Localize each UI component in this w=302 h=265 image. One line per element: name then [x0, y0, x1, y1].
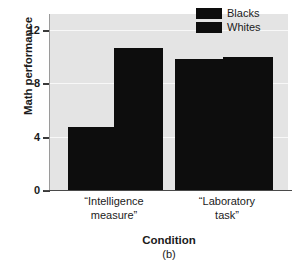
legend-swatch-whites — [196, 22, 222, 33]
x-category-label-line-2: task” — [168, 209, 286, 223]
y-axis-title: Math performance — [22, 0, 34, 146]
x-category-label-line-1: “Intelligence — [54, 195, 174, 209]
x-axis-line — [44, 190, 292, 191]
bar-whites-laboratory-task — [223, 57, 273, 190]
y-tick-label-4: 4 — [0, 132, 40, 143]
y-tick-label-8: 8 — [0, 78, 40, 89]
y-tick-label-0: 0 — [0, 185, 40, 196]
x-category-label-line-2: measure” — [54, 209, 174, 223]
x-category-label-line-1: “Laboratory — [168, 195, 286, 209]
legend-item-whites: Whites — [196, 22, 261, 33]
x-axis-title: Condition — [50, 234, 288, 246]
legend: Blacks Whites — [196, 8, 261, 33]
legend-label-whites: Whites — [227, 22, 261, 33]
figure-panel-b: Math performance 12 8 4 0 Blacks Whites — [0, 0, 302, 265]
y-tick-label-12: 12 — [0, 25, 40, 36]
legend-swatch-blacks — [196, 8, 222, 19]
legend-label-blacks: Blacks — [227, 8, 259, 19]
x-category-label-laboratory-task: “Laboratory task” — [168, 195, 286, 223]
bar-blacks-laboratory-task — [175, 59, 223, 190]
panel-label: (b) — [50, 248, 288, 260]
x-category-label-intelligence-measure: “Intelligence measure” — [54, 195, 174, 223]
legend-item-blacks: Blacks — [196, 8, 261, 19]
bar-whites-intelligence-measure — [114, 48, 163, 190]
bar-blacks-intelligence-measure — [68, 127, 114, 190]
y-axis-line — [49, 14, 50, 191]
plot-area — [50, 14, 288, 190]
